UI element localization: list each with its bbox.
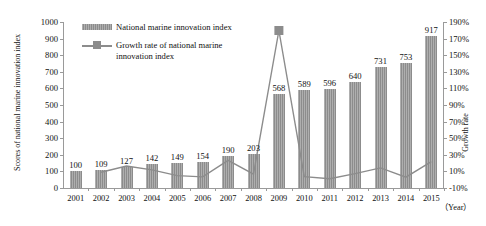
x-tick-label: 2015 bbox=[423, 194, 440, 203]
bar-value-label: 589 bbox=[298, 79, 311, 89]
y-tick-right bbox=[444, 138, 447, 139]
x-tick-label: 2001 bbox=[67, 194, 84, 203]
y-tick-right bbox=[444, 105, 447, 106]
x-tick bbox=[241, 188, 242, 191]
x-tick bbox=[215, 188, 216, 191]
y-tick-label-right: 30% bbox=[449, 150, 465, 160]
bar-value-label: 127 bbox=[120, 156, 133, 166]
x-tick bbox=[114, 188, 115, 191]
x-tick bbox=[317, 188, 318, 191]
y-tick-label-left: 700 bbox=[45, 67, 58, 77]
bar-value-label: 100 bbox=[69, 160, 82, 170]
y-tick-label-left: 0 bbox=[54, 183, 58, 193]
bar-value-label: 203 bbox=[247, 143, 260, 153]
x-tick bbox=[419, 188, 420, 191]
y-tick-label-left: 100 bbox=[45, 166, 58, 176]
x-tick-label: 2004 bbox=[144, 194, 161, 203]
x-tick bbox=[368, 188, 369, 191]
chart-container: Scores of national marine innovation ind… bbox=[0, 0, 486, 226]
bar-value-label: 149 bbox=[171, 152, 184, 162]
y-tick-label-right: 130% bbox=[449, 67, 469, 77]
y-tick-left bbox=[60, 188, 63, 189]
bar-value-label: 917 bbox=[425, 25, 438, 35]
y-tick-label-right: 70% bbox=[449, 117, 465, 127]
bar-value-label: 753 bbox=[399, 52, 412, 62]
x-axis-title: （Year） bbox=[440, 200, 471, 212]
x-tick-label: 2011 bbox=[321, 194, 337, 203]
x-tick bbox=[88, 188, 89, 191]
y-tick-label-right: 50% bbox=[449, 133, 465, 143]
x-tick bbox=[342, 188, 343, 191]
y-tick-right bbox=[444, 171, 447, 172]
x-tick-label: 2007 bbox=[220, 194, 237, 203]
x-tick bbox=[444, 188, 445, 191]
legend-bar-icon bbox=[80, 22, 114, 33]
x-tick-label: 2012 bbox=[347, 194, 364, 203]
bar-value-label: 109 bbox=[95, 159, 108, 169]
y-tick-label-left: 500 bbox=[45, 100, 58, 110]
legend-item-label: National marine innovation index bbox=[116, 22, 232, 33]
legend-item-bar: National marine innovation index bbox=[80, 22, 232, 33]
x-tick bbox=[292, 188, 293, 191]
x-tick bbox=[266, 188, 267, 191]
y-tick-label-left: 600 bbox=[45, 83, 58, 93]
bar-value-label: 640 bbox=[349, 71, 362, 81]
y-tick-label-right: 110% bbox=[449, 83, 469, 93]
y-tick-right bbox=[444, 22, 447, 23]
y-tick-label-left: 400 bbox=[45, 117, 58, 127]
y-tick-label-right: 150% bbox=[449, 50, 469, 60]
y-axis-left-title: Scores of national marine innovation ind… bbox=[13, 13, 22, 193]
chart-legend: National marine innovation index Growth … bbox=[80, 22, 232, 69]
x-tick-label: 2010 bbox=[296, 194, 313, 203]
bar-value-label: 568 bbox=[272, 83, 285, 93]
y-tick-right bbox=[444, 88, 447, 89]
x-tick-label: 2006 bbox=[194, 194, 211, 203]
y-tick-label-right: 190% bbox=[449, 17, 469, 27]
y-tick-label-right: 90% bbox=[449, 100, 465, 110]
y-tick-right bbox=[444, 155, 447, 156]
x-tick-label: 2009 bbox=[271, 194, 288, 203]
bar-value-label: 142 bbox=[145, 153, 158, 163]
y-tick-right bbox=[444, 39, 447, 40]
x-tick-label: 2002 bbox=[93, 194, 110, 203]
x-tick-label: 2014 bbox=[398, 194, 415, 203]
legend-line-icon bbox=[80, 40, 114, 51]
legend-item-line: Growth rate of national marine innovatio… bbox=[80, 40, 232, 62]
y-tick-label-right: 10% bbox=[449, 166, 465, 176]
y-tick-label-left: 800 bbox=[45, 50, 58, 60]
x-tick-label: 2005 bbox=[169, 194, 186, 203]
bar-value-label: 190 bbox=[222, 145, 235, 155]
x-tick-label: 2003 bbox=[118, 194, 135, 203]
x-tick bbox=[139, 188, 140, 191]
y-tick-right bbox=[444, 55, 447, 56]
legend-item-label: Growth rate of national marine innovatio… bbox=[116, 40, 222, 62]
y-tick-label-left: 200 bbox=[45, 150, 58, 160]
bar-value-label: 596 bbox=[323, 78, 336, 88]
x-tick bbox=[393, 188, 394, 191]
y-tick-label-left: 900 bbox=[45, 34, 58, 44]
y-tick-label-left: 1000 bbox=[41, 17, 58, 27]
x-axis-line bbox=[63, 188, 444, 189]
x-tick bbox=[165, 188, 166, 191]
y-tick-label-left: 300 bbox=[45, 133, 58, 143]
y-tick-label-right: 170% bbox=[449, 34, 469, 44]
bar-value-label: 154 bbox=[196, 151, 209, 161]
y-tick-right bbox=[444, 122, 447, 123]
x-tick-label: 2008 bbox=[245, 194, 262, 203]
y-tick-label-right: -10% bbox=[449, 183, 468, 193]
x-tick-label: 2013 bbox=[372, 194, 389, 203]
bar-value-label: 731 bbox=[374, 56, 387, 66]
y-tick-right bbox=[444, 72, 447, 73]
x-tick bbox=[190, 188, 191, 191]
